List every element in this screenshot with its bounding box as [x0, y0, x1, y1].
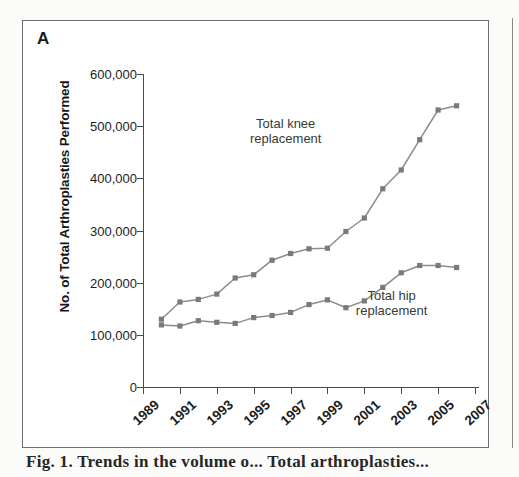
hip-series-annotation: Total hip replacement: [356, 288, 428, 318]
data-point-marker: [343, 229, 348, 234]
data-point-marker: [270, 313, 275, 318]
knee-series-annotation: Total knee replacement: [250, 116, 322, 146]
data-point-marker: [214, 320, 219, 325]
data-point-marker: [417, 137, 422, 142]
data-point-marker: [159, 317, 164, 322]
data-point-marker: [380, 186, 385, 191]
data-point-marker: [288, 310, 293, 315]
data-point-marker: [417, 263, 422, 268]
data-point-marker: [177, 299, 182, 304]
data-point-marker: [399, 167, 404, 172]
data-point-marker: [177, 323, 182, 328]
scanned-page: A No. of Total Arthroplasties Performed …: [0, 0, 519, 477]
data-point-marker: [196, 318, 201, 323]
data-point-marker: [306, 246, 311, 251]
hip-label-line1: Total hip: [367, 288, 415, 303]
data-point-marker: [436, 263, 441, 268]
data-point-marker: [233, 275, 238, 280]
data-point-marker: [325, 246, 330, 251]
data-point-marker: [454, 265, 459, 270]
series-layer: [23, 21, 490, 449]
hip-label-line2: replacement: [356, 303, 428, 318]
data-point-marker: [196, 297, 201, 302]
knee-label-line2: replacement: [250, 131, 322, 146]
data-point-marker: [454, 103, 459, 108]
data-point-marker: [251, 315, 256, 320]
data-point-marker: [399, 270, 404, 275]
figure-panel-a: A No. of Total Arthroplasties Performed …: [22, 20, 489, 448]
figure-caption: Fig. 1. Trends in the volume o... Total …: [26, 452, 496, 474]
data-point-marker: [362, 215, 367, 220]
data-point-marker: [325, 297, 330, 302]
data-point-marker: [343, 305, 348, 310]
knee-label-line1: Total knee: [256, 116, 315, 131]
data-point-marker: [288, 251, 293, 256]
line-chart: No. of Total Arthroplasties Performed 60…: [23, 21, 490, 449]
data-point-marker: [306, 302, 311, 307]
page-column-rule: [512, 18, 519, 448]
data-point-marker: [436, 107, 441, 112]
data-point-marker: [214, 292, 219, 297]
data-point-marker: [251, 272, 256, 277]
data-point-marker: [270, 258, 275, 263]
data-point-marker: [233, 321, 238, 326]
data-point-marker: [159, 322, 164, 327]
